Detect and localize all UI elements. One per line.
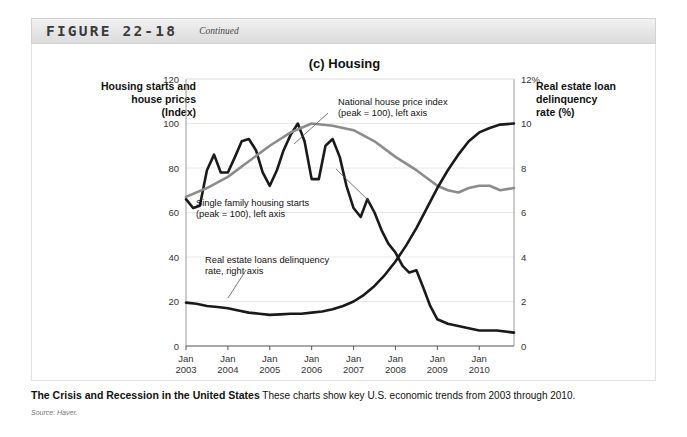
- figure-number-label: FIGURE 22-18: [46, 23, 177, 39]
- y2-axis-tick-label: 12%: [521, 74, 541, 85]
- x-axis-tick-label: Jan: [220, 353, 235, 364]
- x-axis-tick-label: 2010: [469, 364, 490, 375]
- caption-bold: The Crisis and Recession in the United S…: [31, 389, 260, 401]
- x-axis-tick-label: 2009: [427, 364, 448, 375]
- y2-axis-tick-label: 10: [521, 118, 532, 129]
- annotation-delinquency-text: Real estate loans delinquency: [205, 255, 329, 265]
- x-axis-tick-label: Jan: [472, 353, 487, 364]
- y-axis-tick-label: 0: [174, 341, 179, 352]
- figure-header-bar: FIGURE 22-18 Continued: [31, 18, 656, 44]
- x-axis-tick-label: 2006: [301, 364, 322, 375]
- caption-text: These charts show key U.S. economic tren…: [260, 390, 576, 401]
- x-axis-tick-label: 2004: [217, 364, 238, 375]
- x-axis-tick-label: 2007: [343, 364, 364, 375]
- x-axis-tick-label: 2003: [175, 364, 196, 375]
- x-axis-tick-label: 2005: [259, 364, 280, 375]
- y2-axis-tick-label: 6: [521, 207, 526, 218]
- y2-axis-tick-label: 4: [521, 252, 526, 263]
- x-axis-tick-label: Jan: [262, 353, 277, 364]
- y-axis-tick-label: 40: [168, 252, 179, 263]
- annotation-housing-starts-leader-line: [336, 169, 370, 202]
- y-axis-tick-label: 20: [168, 296, 179, 307]
- y2-axis-tick-label: 8: [521, 163, 526, 174]
- figure-continued-label: Continued: [199, 26, 239, 36]
- y-axis-tick-label: 100: [163, 118, 179, 129]
- y-axis-tick-label: 60: [168, 207, 179, 218]
- plot-area: 020406080100120024681012%Jan2003Jan2004J…: [32, 44, 657, 381]
- annotation-delinquency-text: rate, right axis: [205, 266, 264, 276]
- x-axis-tick-label: Jan: [304, 353, 319, 364]
- y2-axis-tick-label: 2: [521, 296, 526, 307]
- annotation-housing-starts-text: Single family housing starts: [196, 198, 310, 208]
- data-series-line: [186, 124, 514, 197]
- figure-page: FIGURE 22-18 Continued (c) Housing Housi…: [0, 0, 687, 437]
- y-axis-tick-label: 80: [168, 163, 179, 174]
- x-axis-tick-label: Jan: [178, 353, 193, 364]
- y-axis-tick-label: 120: [163, 74, 179, 85]
- chart-svg: 020406080100120024681012%Jan2003Jan2004J…: [32, 44, 657, 381]
- annotation-housing-starts-text: (peak = 100), left axis: [196, 209, 285, 219]
- x-axis-tick-label: 2008: [385, 364, 406, 375]
- x-axis-tick-label: Jan: [346, 353, 361, 364]
- annotation-house-price-text: (peak = 100), left axis: [338, 108, 427, 118]
- annotation-house-price-text: National house price index: [338, 97, 448, 107]
- figure-panel: (c) Housing Housing starts and house pri…: [31, 44, 656, 381]
- y2-axis-tick-label: 0: [521, 341, 526, 352]
- x-axis-tick-label: Jan: [430, 353, 445, 364]
- figure-caption: The Crisis and Recession in the United S…: [31, 388, 656, 403]
- figure-source: Source: Haver.: [31, 409, 77, 416]
- x-axis-tick-label: Jan: [388, 353, 403, 364]
